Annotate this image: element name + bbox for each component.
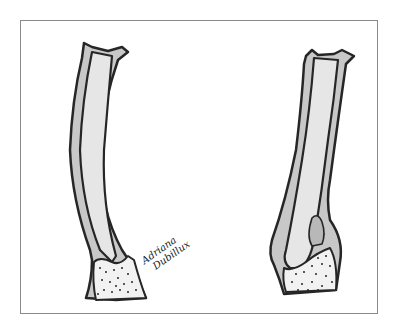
tube-illustration [0, 0, 397, 332]
right-tube-figure [270, 50, 354, 294]
lesion [309, 216, 324, 246]
left-tube-figure [70, 43, 146, 300]
